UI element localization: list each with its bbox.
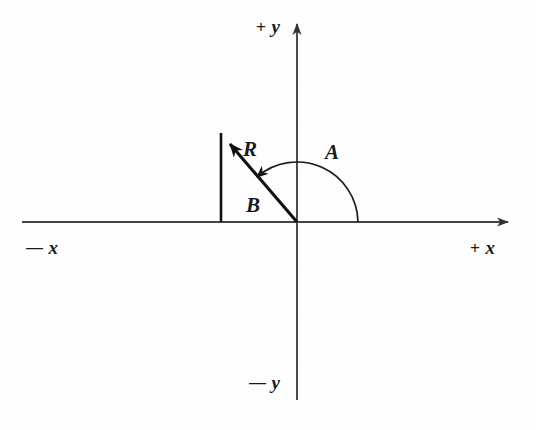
vector-label-r: R bbox=[243, 139, 257, 160]
axis-label-plus-y: +y bbox=[256, 17, 280, 36]
vector-label-b: B bbox=[246, 195, 260, 216]
axis-letter-x-positive: x bbox=[485, 237, 495, 258]
axis-label-plus-x: +x bbox=[470, 238, 495, 257]
minus-sign-y: — bbox=[249, 373, 272, 392]
axis-letter-y-positive: y bbox=[271, 16, 280, 37]
plus-sign-y: + bbox=[256, 17, 271, 36]
minus-sign-x: — bbox=[26, 238, 49, 257]
axis-letter-x-negative: x bbox=[49, 237, 59, 258]
plus-sign-x: + bbox=[470, 238, 485, 257]
diagram-canvas: +y —x +x —y R B A bbox=[0, 0, 536, 430]
axis-label-minus-y: —y bbox=[249, 373, 280, 392]
resultant-vector-r bbox=[230, 144, 297, 222]
vector-diagram-svg bbox=[0, 0, 536, 430]
axis-label-minus-x: —x bbox=[26, 238, 59, 257]
angle-label-a: A bbox=[325, 142, 339, 163]
axis-letter-y-negative: y bbox=[272, 372, 281, 393]
